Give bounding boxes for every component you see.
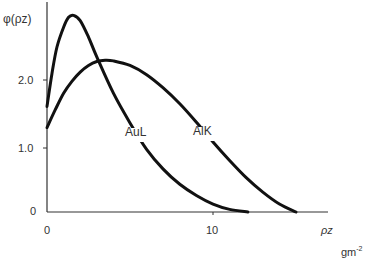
y-tick-label-2: 2.0	[18, 74, 33, 86]
x-axis-label: ρz	[321, 224, 333, 236]
series-label-alk: AlK	[193, 124, 212, 138]
x-tick-label-10: 10	[206, 224, 218, 236]
series-label-aul: AuL	[125, 125, 146, 139]
x-tick-label-0: 0	[44, 224, 50, 236]
y-tick-label-1: 1.0	[18, 142, 33, 154]
unit-exponent: -2	[356, 245, 362, 252]
y-axis-label: φ(ρz)	[3, 12, 32, 26]
unit-text: gm	[341, 246, 356, 258]
curve-aul	[47, 15, 248, 212]
curves	[47, 15, 296, 212]
x-axis-unit: gm-2	[341, 245, 363, 258]
curve-alk	[47, 60, 296, 212]
chart-canvas	[0, 0, 368, 262]
y-tick-label-0: 0	[30, 205, 36, 217]
